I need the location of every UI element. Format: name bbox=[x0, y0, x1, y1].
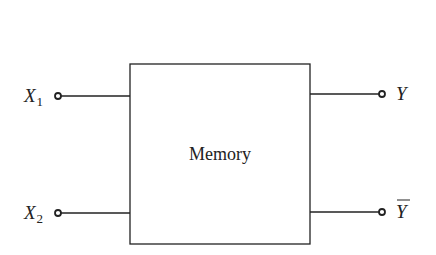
output-y-label: Y bbox=[396, 83, 409, 104]
output-y: Y bbox=[310, 83, 409, 104]
input-x2-label: X2 bbox=[23, 202, 43, 226]
memory-label: Memory bbox=[189, 144, 251, 164]
input-x1: X1 bbox=[23, 85, 130, 109]
memory-diagram: Memory X1 X2 Y Y bbox=[0, 0, 436, 255]
terminal-icon bbox=[379, 209, 385, 215]
terminal-icon bbox=[379, 91, 385, 97]
input-x2: X2 bbox=[23, 202, 130, 226]
terminal-icon bbox=[55, 210, 61, 216]
terminal-icon bbox=[55, 93, 61, 99]
input-x1-label: X1 bbox=[23, 85, 43, 109]
output-y-bar: Y bbox=[310, 200, 410, 222]
output-y-bar-label: Y bbox=[396, 201, 409, 222]
